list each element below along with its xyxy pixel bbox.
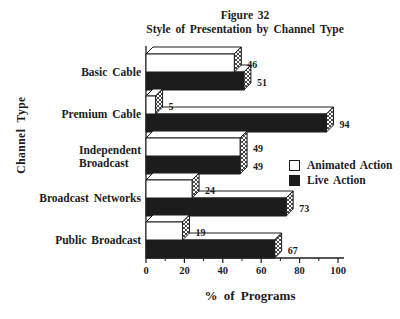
bar-animated-action-basic-cable-top-face (146, 47, 241, 54)
live-action-swatch-icon (289, 175, 300, 186)
value-label-animated-basic-cable: 46 (247, 59, 257, 70)
animated-action-swatch-icon (289, 160, 300, 171)
value-label-animated-premium-cable: 5 (169, 101, 174, 112)
x-axis-label: % of Programs (150, 288, 350, 304)
bar-live-action-public-broadcast-front (146, 240, 275, 258)
x-tick-label-0: 0 (143, 265, 148, 276)
bar-live-action-basic-cable-front (146, 72, 244, 90)
bar-animated-action-public-broadcast-front (146, 222, 182, 240)
value-label-live-basic-cable: 51 (257, 77, 267, 88)
value-label-live-premium-cable: 94 (339, 119, 349, 130)
bar-animated-action-broadcast-networks-top-face (146, 173, 199, 180)
value-label-animated-broadcast-networks: 24 (205, 185, 215, 196)
bar-live-action-premium-cable-top-face (146, 107, 333, 114)
chart-title: Figure 32 Style of Presentation by Chann… (95, 8, 395, 36)
bar-live-action-independent-broadcast-front (146, 156, 240, 174)
value-label-live-independent-broadcast: 49 (253, 161, 263, 172)
x-tick-label-60: 60 (256, 265, 267, 276)
bar-animated-action-premium-cable-front (146, 96, 156, 114)
x-tick-label-20: 20 (179, 265, 190, 276)
bar-animated-action-independent-broadcast-front (146, 138, 240, 156)
category-label-public-broadcast: Public Broadcast (55, 234, 141, 246)
value-label-animated-independent-broadcast: 49 (253, 143, 263, 154)
x-tick-label-100: 100 (330, 265, 346, 276)
value-label-live-broadcast-networks: 73 (299, 203, 309, 214)
legend-item-live-action: Live Action (289, 173, 392, 187)
legend-label-live-action: Live Action (307, 174, 366, 186)
category-label-independent-broadcast-line2: Broadcast (79, 157, 129, 169)
bar-live-action-broadcast-networks-front (146, 198, 286, 216)
chart-title-line1: Figure 32 (95, 8, 395, 22)
category-label-premium-cable: Premium Cable (62, 108, 141, 120)
value-label-animated-public-broadcast: 19 (195, 227, 205, 238)
legend-item-animated-action: Animated Action (289, 158, 392, 172)
bar-animated-action-broadcast-networks-front (146, 180, 192, 198)
category-label-basic-cable: Basic Cable (81, 66, 141, 78)
chart-title-line2: Style of Presentation by Channel Type (95, 22, 395, 36)
legend-label-animated-action: Animated Action (307, 159, 392, 171)
value-label-live-public-broadcast: 67 (288, 245, 298, 256)
x-tick-label-80: 80 (294, 265, 305, 276)
legend: Animated Action Live Action (289, 158, 392, 188)
bar-live-action-premium-cable-front (146, 114, 326, 132)
bar-animated-action-independent-broadcast-top-face (146, 131, 247, 138)
bar-animated-action-basic-cable-front (146, 54, 234, 72)
x-tick-label-40: 40 (218, 265, 229, 276)
category-label-independent-broadcast-line1: Independent (79, 144, 141, 157)
y-axis-label: Channel Type (15, 75, 31, 195)
figure-32-chart: 0204060801004651Basic Cable594Premium Ca… (0, 0, 400, 319)
category-label-broadcast-networks: Broadcast Networks (39, 192, 141, 204)
